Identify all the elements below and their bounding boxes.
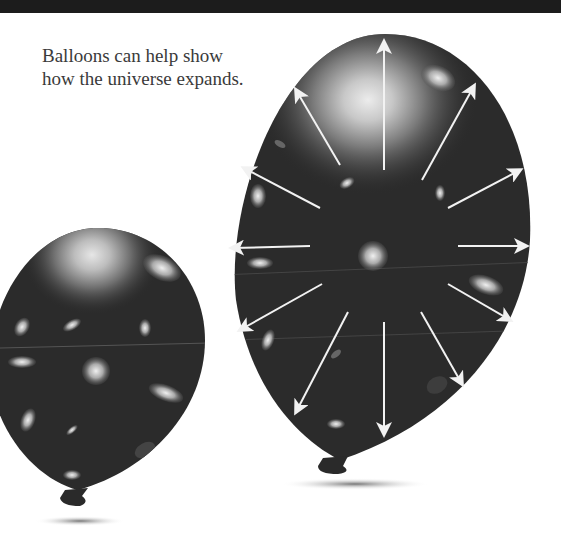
- small-balloon: [0, 195, 210, 526]
- large-balloon-shadow: [280, 478, 430, 490]
- large-balloon: [220, 5, 540, 490]
- small-balloon-knot: [60, 488, 88, 506]
- large-balloon-knot: [318, 456, 348, 474]
- small-balloon-shadow: [35, 516, 125, 526]
- balloons-illustration: [0, 0, 561, 552]
